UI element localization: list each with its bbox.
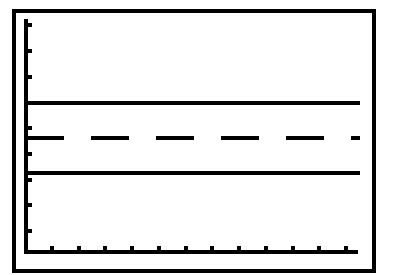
calculator-graph-screen xyxy=(0,0,394,275)
